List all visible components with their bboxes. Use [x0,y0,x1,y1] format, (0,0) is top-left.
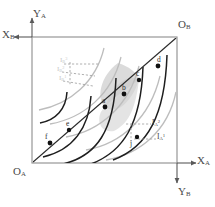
axis-label-ya: YA [33,8,46,20]
point-c-marker [137,78,141,82]
point-f-marker [48,141,53,146]
point-label-a: a [102,97,105,105]
curve-b-1 [39,48,104,110]
point-d-marker [156,64,161,69]
point-a-marker [103,105,108,110]
origin-label-ob: OB [178,19,191,31]
point-label-c: c [136,70,139,78]
axis-label-xa: XA [197,155,210,167]
point-label-b: b [122,84,126,92]
point-b-marker [122,92,127,97]
point-label-d: d [157,56,161,64]
point-label-f: f [45,133,48,141]
axis-label-xb: XB [2,29,15,41]
point-label-j: j [130,140,132,148]
point-e-marker [67,128,71,132]
axis-label-yb: YB [178,186,191,198]
curve-label-b-1: IB1 [59,75,66,82]
origin-label-oa: OA [13,166,26,178]
edgeworth-box-figure: YA XB XA YB OA OB f e a b c d j IA2 IA1 … [0,0,215,207]
point-j-marker [135,135,139,139]
dash-b-low [63,81,93,86]
curve-label-a-1: IA1 [157,133,165,141]
point-label-e: e [66,120,69,128]
curve-a-1 [40,92,67,123]
curve-label-b-2: IB2 [57,66,64,73]
curve-label-b-3: IB3 [60,57,67,64]
curve-label-a-2: IA2 [152,119,160,127]
diagram-canvas [0,0,215,207]
dash-b-mid [62,72,95,76]
